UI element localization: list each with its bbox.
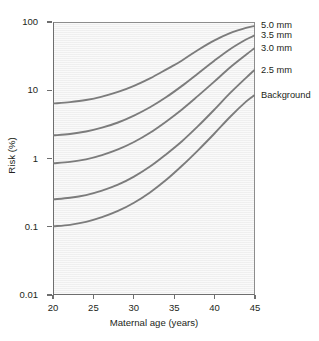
x-tick-label: 40 xyxy=(202,302,228,313)
x-tick-mark xyxy=(52,295,53,299)
curve-3-5-mm xyxy=(54,36,254,136)
x-tick-mark xyxy=(133,295,134,299)
y-tick-label: 0.1 xyxy=(25,222,38,232)
y-tick-label: 1 xyxy=(33,154,38,164)
x-tick-label: 20 xyxy=(40,302,66,313)
curve-2-5-mm xyxy=(54,70,254,199)
curve-background xyxy=(54,96,254,227)
curves-group xyxy=(54,23,254,294)
legend-item-5-0-mm: 5.0 mm xyxy=(261,20,292,30)
y-tick-mark xyxy=(47,90,52,91)
x-tick-label: 25 xyxy=(80,302,106,313)
y-tick-label: 10 xyxy=(27,85,38,95)
plot-area xyxy=(53,22,255,295)
x-tick-mark xyxy=(214,295,215,299)
legend-item-3-0-mm: 3.0 mm xyxy=(261,43,292,53)
x-axis-title: Maternal age (years) xyxy=(53,317,255,328)
legend-item-background: Background xyxy=(261,90,311,100)
x-tick-mark xyxy=(254,295,255,299)
x-tick-mark xyxy=(93,295,94,299)
y-tick-label: 100 xyxy=(22,17,38,27)
risk-vs-maternal-age-chart: 1001010.10.01 Risk (%) 202530354045 Mate… xyxy=(0,0,319,341)
y-tick-mark xyxy=(47,21,52,22)
legend-item-3-5-mm: 3.5 mm xyxy=(261,30,292,40)
curve-5-0-mm xyxy=(54,26,254,103)
y-axis-title: Risk (%) xyxy=(6,121,17,191)
y-tick-mark xyxy=(47,158,52,159)
legend: 5.0 mm3.5 mm3.0 mm2.5 mmBackground xyxy=(261,0,319,341)
x-tick-label: 30 xyxy=(121,302,147,313)
x-tick-mark xyxy=(174,295,175,299)
y-tick-mark xyxy=(47,226,52,227)
x-tick-label: 35 xyxy=(161,302,187,313)
legend-item-2-5-mm: 2.5 mm xyxy=(261,65,292,75)
y-tick-mark xyxy=(47,294,52,295)
